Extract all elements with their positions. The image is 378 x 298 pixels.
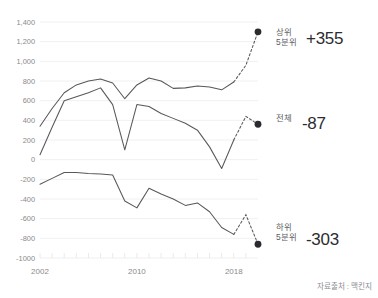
annotation-label-top-quintile: 상위 5분위	[276, 27, 297, 47]
y-axis-tick-labels: 1,4001,2001,0008006004002000-200-400-600…	[16, 18, 35, 263]
series-projection-2	[234, 215, 258, 245]
x-tick-label: 2010	[128, 267, 146, 276]
annotation-label-bottom-quintile: 하위 5분위	[276, 222, 297, 242]
x-axis-tick-marks	[40, 253, 246, 258]
y-tick-label: 600	[23, 96, 35, 105]
y-tick-label: 800	[23, 77, 35, 86]
series-line-2	[40, 172, 234, 234]
y-tick-label: -1000	[16, 254, 35, 263]
y-tick-label: -600	[20, 214, 35, 223]
data-series-layer	[40, 32, 258, 244]
series-endpoint-dot-1	[255, 121, 262, 128]
y-tick-label: 0	[31, 155, 35, 164]
annotation-label-total: 전체	[276, 113, 292, 123]
series-endpoint-dot-0	[255, 28, 262, 35]
series-line-0	[40, 78, 234, 126]
y-tick-label: 1,400	[17, 18, 36, 27]
annotation-value-bottom-quintile: -303	[306, 230, 339, 250]
chart-container: 1,4001,2001,0008006004002000-200-400-600…	[0, 0, 378, 298]
annotation-label-line1: 하위	[276, 222, 292, 232]
x-tick-label: 2018	[225, 267, 243, 276]
annotation-label-line1: 전체	[276, 113, 292, 123]
x-tick-label: 2002	[31, 267, 49, 276]
annotation-value-total: -87	[302, 114, 326, 134]
x-axis-tick-labels: 200220102018	[31, 267, 243, 276]
series-projection-0	[234, 32, 258, 82]
series-line-1	[40, 88, 234, 169]
y-tick-label: -200	[20, 175, 35, 184]
series-endpoint-dot-2	[255, 241, 262, 248]
annotation-label-line2: 5분위	[276, 37, 297, 47]
y-tick-label: 1,200	[17, 37, 36, 46]
y-tick-label: -400	[20, 195, 35, 204]
grid-lines	[40, 22, 258, 258]
annotation-label-line2: 5분위	[276, 232, 297, 242]
annotation-value-top-quintile: +355	[306, 29, 343, 49]
y-tick-label: 1,000	[17, 57, 36, 66]
y-tick-label: 400	[23, 116, 35, 125]
y-tick-label: -800	[20, 234, 35, 243]
annotation-label-line1: 상위	[276, 27, 292, 37]
source-note: 자료출처 : 맥킨지	[317, 280, 372, 291]
y-tick-label: 200	[23, 136, 35, 145]
